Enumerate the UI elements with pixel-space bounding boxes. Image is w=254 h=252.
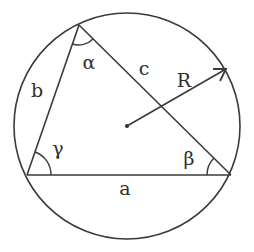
angle-gamma-arc (35, 152, 51, 175)
angle-gamma-label: γ (52, 139, 63, 158)
side-a-label: a (119, 179, 130, 198)
side-c-label: c (139, 59, 150, 78)
angle-beta-arc (207, 158, 214, 175)
diagram-canvas (0, 0, 254, 252)
angle-alpha-label: α (83, 53, 96, 72)
side-b-label: b (31, 81, 43, 100)
circumcircle-diagram: α b c R γ β a (0, 0, 254, 252)
angle-alpha-arc (73, 39, 94, 45)
angle-beta-label: β (184, 149, 195, 168)
radius-label: R (177, 71, 191, 90)
